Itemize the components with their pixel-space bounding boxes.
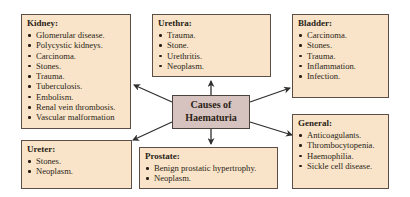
ureter-box: Ureter: Stones. Neoplasm. <box>21 140 132 189</box>
prostate-item: Benign prostatic hypertrophy. <box>145 163 273 173</box>
kidney-title: Kidney: <box>27 18 126 29</box>
kidney-item: Polycystic kidneys. <box>27 40 126 50</box>
kidney-item: Tuberculosis. <box>27 81 126 91</box>
bladder-item: Carcinoma. <box>298 30 384 40</box>
urethra-item: Stone. <box>158 40 266 50</box>
general-item: Haemophilia. <box>298 151 384 161</box>
central-node-causes-of-haematuria: Causes of Haematuria <box>172 95 250 129</box>
arrow-to-kidney <box>134 85 172 102</box>
urethra-box: Urethra: Trauma. Stone. Urethritis. Neop… <box>152 14 271 77</box>
ureter-title: Ureter: <box>27 144 127 155</box>
urethra-item: Neoplasm. <box>158 61 266 71</box>
kidney-item: Vascular malformation <box>27 112 126 122</box>
general-item: Anticoagulants. <box>298 130 384 140</box>
kidney-item: Stones. <box>27 61 126 71</box>
kidney-box: Kidney: Glomerular disease. Polycystic k… <box>21 14 131 129</box>
urethra-title: Urethra: <box>158 18 266 29</box>
kidney-item: Renal vein thrombosis. <box>27 102 126 112</box>
center-line-1: Causes of <box>173 99 249 112</box>
urethra-item: Urethritis. <box>158 51 266 61</box>
kidney-item: Carcinoma. <box>27 51 126 61</box>
prostate-item: Neoplasm. <box>145 173 273 183</box>
general-title: General: <box>298 118 384 129</box>
bladder-item: Inflammation. <box>298 61 384 71</box>
kidney-item: Trauma. <box>27 71 126 81</box>
arrow-to-bladder <box>250 88 290 102</box>
general-item: Sickle cell disease. <box>298 161 384 171</box>
arrow-to-ureter <box>133 122 172 140</box>
kidney-item: Embolism. <box>27 92 126 102</box>
ureter-item: Neoplasm. <box>27 166 127 176</box>
general-box: General: Anticoagulants. Thrombocytopeni… <box>292 114 389 189</box>
prostate-title: Prostate: <box>145 151 273 162</box>
ureter-item: Stones. <box>27 156 127 166</box>
arrow-to-general <box>250 122 292 135</box>
kidney-item: Glomerular disease. <box>27 30 126 40</box>
prostate-box: Prostate: Benign prostatic hypertrophy. … <box>139 147 278 189</box>
bladder-item: Trauma. <box>298 51 384 61</box>
bladder-box: Bladder: Carcinoma. Stones. Trauma. Infl… <box>292 14 389 98</box>
urethra-item: Trauma. <box>158 30 266 40</box>
general-item: Thrombocytopenia. <box>298 140 384 150</box>
bladder-title: Bladder: <box>298 18 384 29</box>
bladder-item: Stones. <box>298 40 384 50</box>
center-line-2: Haematuria <box>173 112 249 125</box>
bladder-item: Infection. <box>298 71 384 81</box>
